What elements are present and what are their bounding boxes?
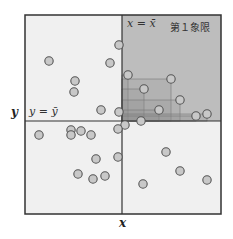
data-point <box>114 125 122 133</box>
y-axis-label: y <box>11 105 18 119</box>
y-mean-label: y = ȳ <box>29 105 58 118</box>
data-point <box>192 112 200 120</box>
data-point <box>140 85 148 93</box>
data-point <box>35 131 43 139</box>
data-point <box>137 117 145 125</box>
x-mean-label: x = x̄ <box>127 17 156 30</box>
scatter-diagram <box>0 0 233 239</box>
data-point <box>203 176 211 184</box>
data-point <box>114 153 122 161</box>
data-point <box>203 110 211 118</box>
data-point <box>74 170 82 178</box>
data-point <box>155 106 163 114</box>
data-point <box>176 96 184 104</box>
x-axis-label: x <box>119 216 126 230</box>
data-point <box>97 106 105 114</box>
data-point <box>106 59 114 67</box>
data-point <box>70 88 78 96</box>
data-point <box>77 127 85 135</box>
data-point <box>45 57 53 65</box>
data-point <box>92 155 100 163</box>
data-point <box>124 71 132 79</box>
data-point <box>139 180 147 188</box>
data-point <box>101 172 109 180</box>
deviation-rectangle <box>122 116 196 121</box>
quadrant-1-label: 第１象限 <box>170 19 210 34</box>
data-point <box>176 167 184 175</box>
data-point <box>71 77 79 85</box>
data-point <box>162 148 170 156</box>
data-point <box>87 131 95 139</box>
data-point <box>67 131 75 139</box>
data-point <box>115 108 123 116</box>
data-point <box>89 175 97 183</box>
data-point <box>167 75 175 83</box>
data-point <box>115 41 123 49</box>
